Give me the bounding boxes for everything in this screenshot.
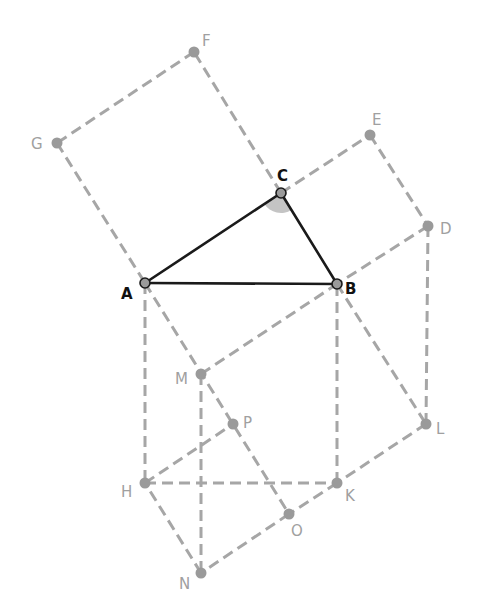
dashed-segment-AO — [145, 283, 289, 514]
point-A[interactable] — [140, 278, 150, 288]
dashed-segment-FG — [57, 52, 194, 143]
label-B: B — [345, 280, 356, 298]
dashed-segment-DL — [426, 226, 428, 424]
label-G: G — [31, 135, 43, 153]
label-F: F — [202, 32, 211, 50]
geometry-diagram: ABCDEFGHKLMNOP — [0, 0, 478, 610]
point-B[interactable] — [332, 279, 342, 289]
triangle-sides — [145, 193, 337, 284]
dashed-segment-ON — [201, 514, 289, 573]
label-L: L — [436, 420, 445, 438]
point-K[interactable] — [332, 478, 343, 489]
label-N: N — [179, 575, 190, 593]
point-C[interactable] — [276, 188, 286, 198]
point-M[interactable] — [196, 369, 207, 380]
point-N[interactable] — [196, 568, 207, 579]
point-F[interactable] — [189, 47, 200, 58]
dashed-segment-LK — [337, 424, 426, 483]
point-L[interactable] — [421, 419, 432, 430]
dashed-segment-CF — [194, 52, 281, 193]
point-E[interactable] — [365, 130, 376, 141]
dashed-segment-KO — [289, 483, 337, 514]
dashed-segment-GA — [57, 143, 145, 283]
dashed-segment-CE — [281, 135, 370, 193]
point-G[interactable] — [52, 138, 63, 149]
labels-layer: ABCDEFGHKLMNOP — [31, 32, 452, 593]
point-O[interactable] — [284, 509, 295, 520]
triangle-side-CA — [145, 193, 281, 283]
dashed-segment-HP — [145, 424, 233, 483]
label-H: H — [121, 483, 132, 501]
point-D[interactable] — [423, 221, 434, 232]
dashed-segment-DB — [337, 226, 428, 284]
label-P: P — [243, 414, 252, 432]
triangle-side-BC — [281, 193, 337, 284]
label-A: A — [121, 285, 133, 303]
point-H[interactable] — [140, 478, 151, 489]
label-E: E — [372, 111, 381, 129]
label-C: C — [277, 167, 288, 185]
dashed-segment-NH — [145, 483, 201, 573]
label-K: K — [345, 487, 356, 505]
label-D: D — [440, 220, 452, 238]
dashed-segment-ED — [370, 135, 428, 226]
triangle-side-AB — [145, 283, 337, 284]
dashed-segment-BL — [337, 284, 426, 424]
dashed-segment-MB — [201, 284, 337, 374]
point-P[interactable] — [228, 419, 239, 430]
label-O: O — [291, 522, 303, 540]
label-M: M — [175, 370, 188, 388]
